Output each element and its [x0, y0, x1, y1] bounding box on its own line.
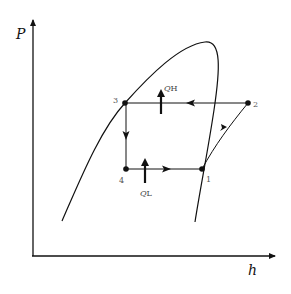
point-label-4: 4 — [119, 177, 124, 185]
point-label-3: 3 — [113, 97, 118, 105]
ph-diagram — [0, 0, 291, 294]
arrow-1-2-icon — [220, 124, 227, 131]
ql-label: QL — [140, 190, 152, 198]
state-point-1 — [199, 166, 205, 172]
ql-arrow-icon — [141, 158, 149, 166]
point-label-2: 2 — [253, 101, 258, 109]
state-point-2 — [245, 100, 251, 106]
compression-line — [202, 103, 248, 169]
qh-label: QH — [164, 85, 178, 93]
point-label-1: 1 — [206, 176, 211, 184]
y-axis-label: P — [16, 27, 25, 41]
state-point-4 — [123, 166, 129, 172]
state-point-3 — [122, 100, 128, 106]
x-axis-label: h — [248, 263, 257, 277]
